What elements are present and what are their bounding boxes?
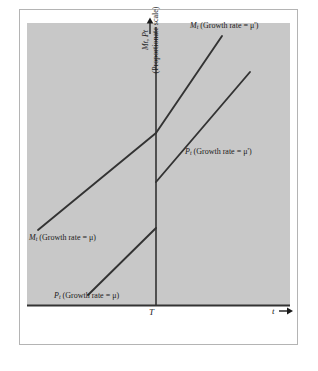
money-line-post-t: [156, 36, 222, 133]
annotation-price-post-t: Pt (Growth rate = μ'): [185, 148, 252, 157]
annotation-money-pre-t: Mt (Growth rate = μ): [29, 234, 96, 243]
figure-container: Mt, Pt (Proportionate scale) Mt (Growth …: [0, 0, 318, 371]
bottom-caption-sliver: [0, 364, 120, 371]
y-axis-label: Mt, Pt (Proportionate scale): [141, 0, 161, 84]
price-line-post-t: [156, 72, 250, 182]
annotation-price-pre-t: Pt (Growth rate = μ): [54, 292, 119, 301]
money-line-pre-t: [38, 133, 156, 230]
price-line-pre-t: [88, 228, 156, 295]
x-axis-arrow-icon: [279, 308, 293, 315]
annotation-money-post-t: Mt (Growth rate = μ'): [190, 22, 258, 31]
y-axis-label-line2: (Proportionate scale): [151, 0, 161, 84]
y-axis-label-line1: Mt, Pt: [141, 0, 151, 84]
x-axis-label: t: [272, 306, 275, 316]
t-tick-label: T: [149, 307, 154, 317]
